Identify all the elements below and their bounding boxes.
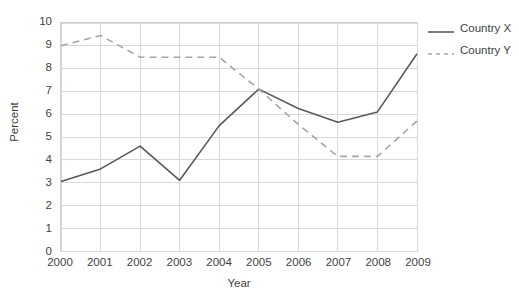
legend-line-swatch — [428, 23, 454, 33]
series-line-1 — [61, 36, 417, 157]
legend-line-swatch — [428, 45, 454, 55]
y-tick-label: 9 — [6, 39, 52, 51]
line-chart-figure: 109876543210 Percent 2000200120022003200… — [0, 0, 519, 300]
y-axis-title: Percent — [8, 82, 20, 162]
x-axis-tick-labels: 2000200120022003200420052006200720082009 — [60, 256, 418, 274]
series-line-0 — [61, 54, 417, 182]
x-axis-title: Year — [60, 277, 418, 289]
x-tick-label: 2009 — [394, 256, 442, 269]
legend-label: Country Y — [460, 44, 511, 56]
y-tick-label: 3 — [6, 177, 52, 189]
chart-legend: Country XCountry Y — [428, 18, 518, 62]
y-tick-label: 2 — [6, 200, 52, 212]
plot-area — [60, 22, 418, 252]
legend-entry[interactable]: Country X — [428, 18, 518, 37]
data-series-layer — [61, 23, 417, 251]
y-tick-label: 8 — [6, 62, 52, 74]
y-tick-label: 1 — [6, 223, 52, 235]
legend-label: Country X — [460, 22, 511, 34]
legend-entry[interactable]: Country Y — [428, 40, 518, 59]
y-tick-label: 10 — [6, 16, 52, 28]
